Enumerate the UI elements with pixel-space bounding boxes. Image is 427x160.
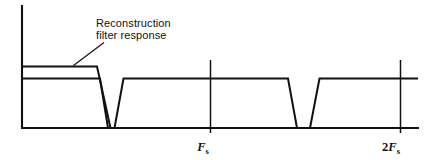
tick-label-two-fs-subscript: s [397, 146, 401, 156]
spectrum-diagram: Reconstruction filter response Fs 2Fs [0, 0, 427, 160]
annotation-line-1: Reconstruction [96, 17, 171, 29]
tick-label-fs: Fs [196, 140, 209, 156]
signal-spectrum-baseband-lobe [22, 79, 108, 129]
signal-spectrum-first-image-lobe [115, 79, 298, 129]
reconstruction-filter-response-curve [22, 67, 111, 129]
annotation-leader-line [74, 43, 105, 66]
tick-label-fs-subscript: s [206, 146, 210, 156]
signal-spectrum-second-image-lobe [310, 79, 418, 129]
annotation-line-2: filter response [96, 29, 167, 41]
figure-container: Reconstruction filter response Fs 2Fs [0, 0, 427, 160]
tick-label-two-fs: 2Fs [382, 140, 401, 156]
